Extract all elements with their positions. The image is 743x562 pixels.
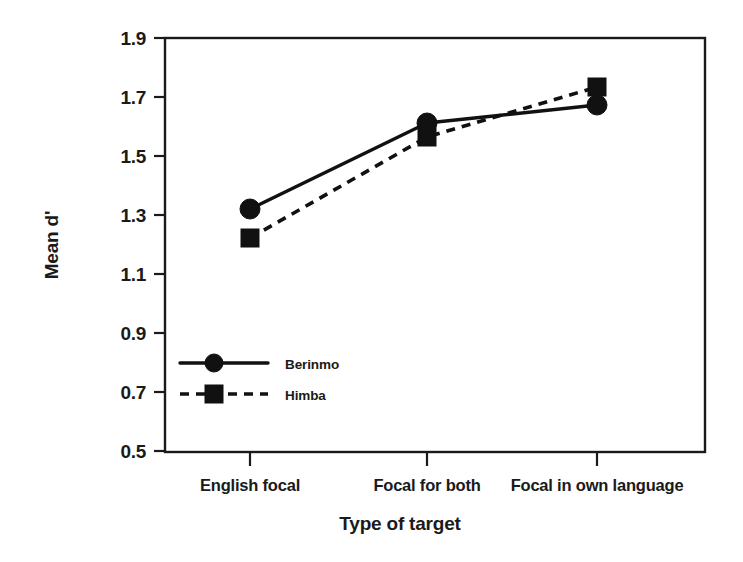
y-tick-label: 0.5: [120, 441, 146, 462]
y-tick-label: 1.7: [120, 87, 146, 108]
chart-legend: Berinmo Himba: [180, 354, 339, 403]
y-tick-label: 1.5: [120, 146, 146, 167]
y-axis-title: Mean d': [41, 211, 62, 280]
x-tick-label: Focal for both: [373, 476, 480, 494]
legend-label-himba: Himba: [285, 388, 326, 403]
y-tick-label: 0.9: [120, 323, 146, 344]
x-axis-tick-labels: English focal Focal for both Focal in ow…: [200, 476, 683, 494]
legend-entry-himba: Himba: [180, 385, 326, 403]
x-axis-ticks: [250, 452, 597, 466]
y-tick-label: 0.7: [120, 382, 146, 403]
y-tick-label: 1.1: [120, 264, 146, 285]
berinmo-data-point: [417, 113, 437, 133]
figure-canvas: 1.9 1.7 1.5 1.3 1.1 0.9 0.7 0.5 English …: [0, 0, 743, 562]
series-berinmo: [240, 95, 607, 219]
x-axis-title: Type of target: [339, 513, 461, 534]
y-axis-ticks: [154, 38, 165, 451]
himba-data-point: [241, 229, 259, 247]
y-tick-label: 1.3: [120, 205, 146, 226]
berinmo-data-point: [240, 199, 260, 219]
legend-entry-berinmo: Berinmo: [180, 354, 339, 372]
legend-circle-marker-icon: [205, 354, 223, 372]
series-himba: [241, 78, 606, 247]
y-axis-tick-labels: 1.9 1.7 1.5 1.3 1.1 0.9 0.7 0.5: [120, 28, 146, 462]
y-tick-label: 1.9: [120, 28, 146, 49]
berinmo-data-point: [587, 95, 607, 115]
himba-data-point: [588, 78, 606, 96]
legend-label-berinmo: Berinmo: [285, 357, 339, 372]
line-chart: 1.9 1.7 1.5 1.3 1.1 0.9 0.7 0.5 English …: [0, 0, 743, 562]
x-tick-label: Focal in own language: [511, 476, 684, 494]
legend-square-marker-icon: [205, 385, 223, 403]
x-tick-label: English focal: [200, 476, 300, 494]
